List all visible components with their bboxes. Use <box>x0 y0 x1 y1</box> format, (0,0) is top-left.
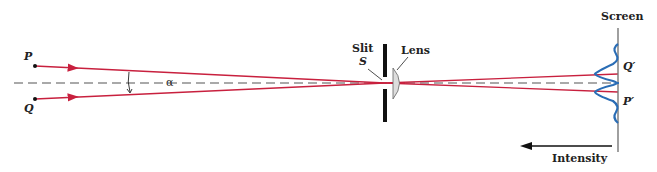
slit-leader <box>368 69 382 80</box>
label-p: P <box>23 50 33 63</box>
ray-q <box>35 83 385 99</box>
label-slit-s: S <box>359 55 367 68</box>
label-q-prime: Q′ <box>623 60 636 73</box>
diffraction-diagram: P Q α Slit S Lens Screen Q′ P′ Intensity <box>0 0 657 172</box>
ray-q-out <box>385 74 618 83</box>
slit-upper <box>383 44 387 77</box>
label-slit: Slit <box>352 42 374 55</box>
label-alpha: α <box>166 76 174 89</box>
lens-leader <box>397 57 408 70</box>
source-q-dot <box>33 97 37 101</box>
label-lens: Lens <box>401 44 430 57</box>
angle-alpha-arrow <box>128 72 130 92</box>
ray-p <box>35 66 385 83</box>
slit-lower <box>383 89 387 122</box>
lens <box>393 68 400 99</box>
label-intensity: Intensity <box>552 152 608 165</box>
label-q: Q <box>24 102 34 115</box>
label-p-prime: P′ <box>622 95 634 108</box>
label-screen: Screen <box>601 10 643 23</box>
ray-p-out <box>385 83 618 92</box>
intensity-pattern-q <box>595 44 618 84</box>
diagram-canvas: P Q α Slit S Lens Screen Q′ P′ Intensity <box>0 0 657 172</box>
intensity-pattern-p <box>595 82 618 123</box>
source-p-dot <box>33 64 37 68</box>
